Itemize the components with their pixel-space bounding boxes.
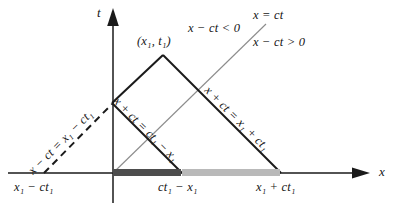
x-axis-label: x [379,165,385,178]
dark-interval-bar [113,169,181,176]
spacetime-diagram: t x (x₁, t₁) x = ct x − ct < 0 x − ct > … [0,0,413,211]
tick-label-right: x₁ + ct₁ [256,181,296,194]
light-cone-line [113,24,266,173]
tick-label-left: x₁ − ct₁ [14,181,54,194]
tick-label-middle: ct₁ − x₁ [158,181,198,194]
t-axis-label: t [97,6,101,19]
apex-point-label: (x₁, t₁) [137,35,171,48]
region-left-label: x − ct < 0 [188,22,240,35]
region-right-label: x − ct > 0 [253,36,305,49]
light-interval-bar [182,169,280,176]
light-cone-line-label: x = ct [253,9,283,22]
